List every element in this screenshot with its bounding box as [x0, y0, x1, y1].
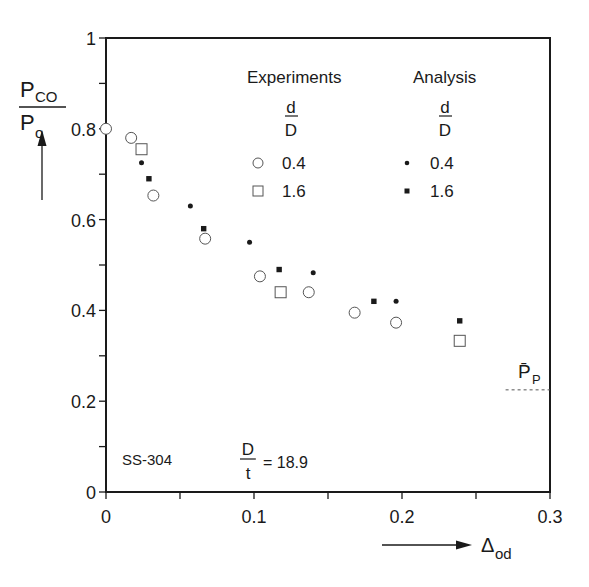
- open-square-marker: [136, 144, 147, 155]
- y-label-den: P: [20, 110, 35, 135]
- x-axis-ticks: 00.10.20.3: [101, 492, 563, 527]
- annotations: SS-304 D t = 18.9: [122, 440, 308, 483]
- open-circle-marker: [303, 287, 314, 298]
- filled-dot-marker: [247, 240, 252, 245]
- plot-frame: [106, 38, 550, 492]
- filled-square-marker: [276, 267, 281, 272]
- filled-square-marker: [457, 318, 462, 323]
- open-square-marker: [275, 287, 286, 298]
- filled-square-marker: [201, 226, 206, 231]
- pp-reference-line: P̄P: [506, 361, 550, 390]
- filled-dot-marker: [188, 203, 193, 208]
- y-label-num: P: [20, 77, 35, 102]
- y-tick-label: 0.2: [71, 392, 96, 412]
- material-label: SS-304: [122, 451, 172, 468]
- open-circle-icon: [253, 158, 263, 168]
- x-tick-label: 0.2: [389, 507, 414, 527]
- legend-exp-04: 0.4: [282, 154, 306, 173]
- filled-square-marker: [371, 299, 376, 304]
- filled-square-icon: [405, 189, 410, 194]
- filled-dot-marker: [311, 270, 316, 275]
- dt-ratio-value: = 18.9: [263, 454, 308, 471]
- filled-square-marker: [146, 176, 151, 181]
- pp-label-sub: P: [532, 372, 541, 387]
- legend-experiments-title: Experiments: [247, 68, 341, 87]
- open-circle-marker: [126, 132, 137, 143]
- open-circle-marker: [349, 307, 360, 318]
- y-tick-label: 0.8: [71, 120, 96, 140]
- filled-dot-marker: [394, 299, 399, 304]
- chart: 00.10.20.3 00.20.40.60.81 P̄P P CO P o Δ…: [0, 0, 589, 587]
- x-tick-label: 0.1: [241, 507, 266, 527]
- open-circle-marker: [254, 271, 265, 282]
- svg-text:d: d: [286, 98, 295, 117]
- legend-analysis-title: Analysis: [413, 68, 476, 87]
- filled-dot-marker: [139, 160, 144, 165]
- x-tick-label: 0.3: [537, 507, 562, 527]
- y-tick-label: 1: [86, 29, 96, 49]
- filled-dot-icon: [405, 161, 410, 166]
- y-tick-label: 0: [86, 483, 96, 503]
- legend: Experiments d D 0.4 1.6 Analysis d D 0.4…: [247, 68, 476, 201]
- svg-text:D: D: [242, 440, 254, 459]
- open-circle-marker: [101, 123, 112, 134]
- x-axis-label: Δ od: [382, 534, 512, 562]
- svg-text:d: d: [440, 98, 449, 117]
- legend-exp-16: 1.6: [282, 182, 306, 201]
- y-axis-label: P CO P o: [19, 77, 66, 200]
- x-tick-label: 0: [101, 507, 111, 527]
- open-circle-marker: [148, 190, 159, 201]
- open-circle-marker: [200, 233, 211, 244]
- right-arrow-icon: [382, 541, 472, 550]
- y-axis-ticks: 00.20.40.60.81: [71, 29, 106, 503]
- y-label-num-sub: CO: [35, 88, 58, 105]
- pp-label: P̄: [518, 361, 531, 382]
- open-square-marker: [454, 335, 465, 346]
- svg-text:D: D: [285, 121, 297, 140]
- legend-ana-16: 1.6: [430, 182, 454, 201]
- open-circle-marker: [391, 317, 402, 328]
- x-label-sub: od: [495, 545, 512, 562]
- svg-text:t: t: [246, 464, 251, 483]
- open-square-icon: [253, 186, 263, 196]
- svg-text:D: D: [439, 121, 451, 140]
- y-tick-label: 0.4: [71, 301, 96, 321]
- legend-ana-04: 0.4: [430, 154, 454, 173]
- y-tick-label: 0.6: [71, 211, 96, 231]
- x-label-delta: Δ: [481, 534, 494, 556]
